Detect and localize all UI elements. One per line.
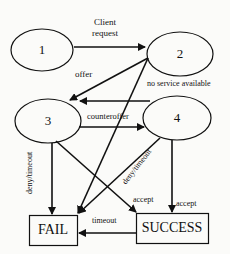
edge-2-to-3-offer bbox=[70, 58, 148, 100]
edge-label-client: Client bbox=[94, 17, 116, 27]
edge-label-request: request bbox=[92, 28, 118, 38]
fail-label: FAIL bbox=[29, 222, 77, 238]
state-diagram: 1 2 3 4 FAIL SUCCESS Client request offe… bbox=[0, 0, 230, 254]
edge-label-offer: offer bbox=[75, 69, 92, 79]
node-4-label: 4 bbox=[167, 111, 187, 125]
success-label: SUCCESS bbox=[136, 220, 208, 236]
edge-label-3-deny-timeout: deny/timeout bbox=[25, 152, 35, 194]
node-3-label: 3 bbox=[38, 114, 58, 128]
node-2-label: 2 bbox=[170, 47, 190, 61]
edge-label-counteroffer: counteroffer bbox=[87, 111, 129, 121]
edge-label-no-service: no service available bbox=[147, 79, 211, 89]
edge-label-3-accept: accept bbox=[133, 195, 153, 205]
edge-2-to-fail bbox=[78, 58, 148, 213]
node-1-label: 1 bbox=[32, 43, 52, 57]
edge-label-4-accept: accept bbox=[176, 199, 196, 209]
edge-label-timeout: timeout bbox=[92, 216, 116, 226]
